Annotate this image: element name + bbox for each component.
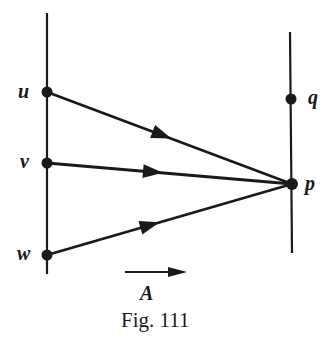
- right-vertical-line: [290, 32, 292, 253]
- arrowhead-u-p-icon: [150, 125, 174, 145]
- edge-w-p: [47, 184, 292, 255]
- point-q: [286, 94, 297, 105]
- figure-caption: Fig. 111: [121, 308, 189, 332]
- point-u: [42, 87, 53, 98]
- label-w: w: [17, 242, 31, 264]
- label-u: u: [18, 80, 29, 102]
- label-p: p: [303, 172, 315, 195]
- diagram-figure: u v w q p A Fig. 111: [0, 0, 336, 339]
- point-w: [42, 250, 53, 261]
- vector-a-arrowhead-icon: [168, 267, 187, 277]
- arrowhead-v-p-icon: [142, 164, 163, 180]
- edge-v-p: [47, 163, 292, 184]
- label-v: v: [20, 150, 30, 172]
- point-p: [286, 178, 298, 190]
- arrowhead-w-p-icon: [138, 215, 161, 234]
- point-v: [42, 158, 53, 169]
- vector-a-label: A: [138, 282, 153, 304]
- label-q: q: [308, 86, 318, 109]
